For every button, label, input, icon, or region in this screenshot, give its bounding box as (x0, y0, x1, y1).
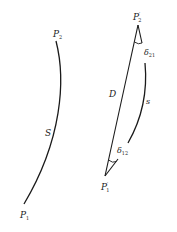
right-figure: P′2 δ21 D s δ12 P′1 (100, 11, 155, 193)
left-figure: P2 S P1 (19, 29, 62, 221)
angle-ray-top (138, 25, 142, 43)
label-delta12: δ12 (117, 146, 128, 156)
label-P2: P2 (52, 29, 62, 40)
label-delta21: δ21 (144, 48, 155, 58)
label-s: s (146, 97, 150, 106)
geodesic-projection-diagram: P2 S P1 P′2 δ21 D s δ12 P′1 (0, 0, 177, 232)
curve-S (24, 41, 61, 204)
angle-arc-delta12 (109, 160, 117, 162)
label-P1: P1 (19, 210, 29, 221)
arc-s (128, 63, 146, 143)
label-S: S (45, 128, 51, 138)
label-P2-prime: P′2 (132, 11, 141, 23)
angle-arc-delta21 (135, 42, 143, 44)
label-P1-prime: P′1 (100, 181, 109, 193)
label-D: D (108, 89, 116, 99)
